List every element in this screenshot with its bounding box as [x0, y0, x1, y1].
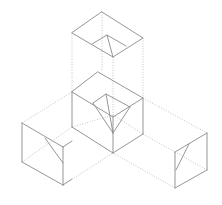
hidden-lines	[22, 12, 207, 188]
right-cube	[175, 133, 207, 188]
top-cube	[72, 12, 143, 57]
center-cube	[72, 72, 143, 153]
isometric-diagram	[0, 0, 222, 205]
left-cube	[22, 123, 72, 185]
